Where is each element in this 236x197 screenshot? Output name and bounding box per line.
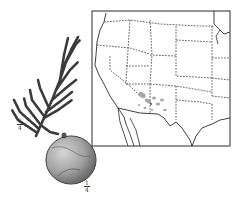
cone-scale-numerator: 1 xyxy=(85,179,89,186)
foliage-scale-label: 1 4 xyxy=(17,118,23,130)
cone-scale-label: 1 4 xyxy=(84,180,90,192)
cone-illustration xyxy=(46,133,96,184)
foliage-scale-denominator: 4 xyxy=(18,124,22,131)
range-stipple xyxy=(137,91,167,111)
foliage-sprig-illustration xyxy=(0,0,236,197)
cone-scale-denominator: 4 xyxy=(85,186,89,193)
foliage-scale-numerator: 1 xyxy=(18,117,22,124)
range-map xyxy=(92,11,230,146)
